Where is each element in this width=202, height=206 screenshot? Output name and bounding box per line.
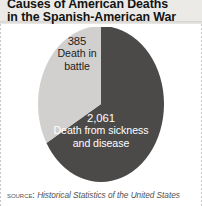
pie-label-battle-value: 385 [46,35,108,47]
pie-label-disease: 2,061 Death from sickness and disease [21,112,181,149]
chart-title-line-2: in the Spanish-American War [7,10,176,24]
chart-figure: Causes of American Deaths in the Spanish… [0,0,202,206]
chart-title: Causes of American Deaths in the Spanish… [7,0,195,24]
pie-label-disease-caption-2: and disease [21,137,181,149]
pie-label-disease-caption-1: Death from sickness [21,124,181,136]
pie-label-battle-caption-1: Death in [46,47,108,59]
source-title: Historical Statistics of the United Stat… [37,190,180,200]
pie-label-disease-value: 2,061 [21,112,181,124]
pie-label-battle-caption-2: battle [46,60,108,72]
source-note: Source: Historical Statistics of the Uni… [7,190,199,200]
pie-label-battle: 385 Death in battle [46,35,108,72]
source-label: Source: [7,190,35,200]
chart-title-band: Causes of American Deaths in the Spanish… [0,0,202,24]
pie-chart-area: 385 Death in battle 2,061 Death from sic… [0,24,202,184]
